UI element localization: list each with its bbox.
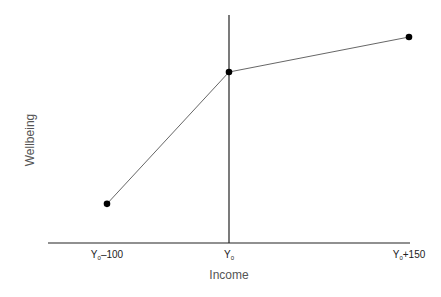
data-point-marker [226, 69, 233, 76]
chart: Y0–100 Y0 Y0+150 Income Wellbeing [0, 0, 441, 297]
data-point-marker [406, 34, 413, 41]
data-markers [104, 34, 413, 207]
x-tick-label: Y0–100 [91, 249, 123, 261]
x-tick-label: Y0 [224, 249, 234, 261]
y-axis-title: Wellbeing [23, 114, 37, 166]
data-point-marker [104, 201, 111, 208]
x-axis-title: Income [209, 268, 248, 282]
data-line [107, 37, 409, 204]
plot-area [0, 0, 441, 297]
x-tick-label: Y0+150 [393, 249, 426, 261]
